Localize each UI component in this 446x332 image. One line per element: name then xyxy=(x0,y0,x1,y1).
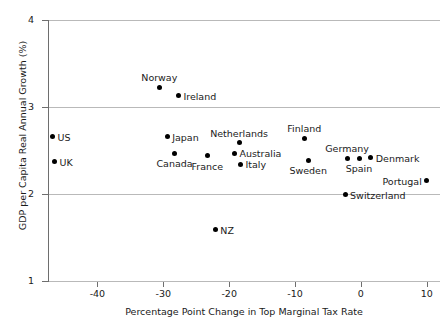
data-point-label: US xyxy=(58,132,71,142)
gridline-y-1 xyxy=(48,281,440,282)
gridline-y-4 xyxy=(48,20,440,21)
data-point-marker xyxy=(368,155,373,160)
gridline-y-3 xyxy=(48,107,440,108)
data-point-label: Switzerland xyxy=(350,190,405,200)
data-point-label: Japan xyxy=(172,132,199,142)
data-point-marker xyxy=(213,227,218,232)
data-point-label: Sweden xyxy=(289,166,327,176)
data-point-label: France xyxy=(192,162,224,172)
data-point-marker xyxy=(165,134,170,139)
x-tick-label--30: -30 xyxy=(143,289,183,299)
data-point-marker xyxy=(302,136,307,141)
data-point-label: Finland xyxy=(287,124,321,134)
x-tick--40 xyxy=(97,282,98,287)
data-point-label: Netherlands xyxy=(210,129,268,139)
data-point-marker xyxy=(345,156,350,161)
y-tick-1 xyxy=(42,281,49,282)
data-point-label: Norway xyxy=(141,73,177,83)
y-axis-title: GDP per Capita Real Annual Growth (%) xyxy=(17,16,28,256)
x-tick--20 xyxy=(229,282,230,287)
scatter-chart: USUKNorwayIrelandJapanCanadaFranceNZNeth… xyxy=(0,0,446,332)
x-tick-0 xyxy=(361,282,362,287)
data-point-label: Germany xyxy=(325,144,369,154)
x-tick-label--40: -40 xyxy=(77,289,117,299)
x-tick-label--10: -10 xyxy=(275,289,315,299)
data-point-label: Ireland xyxy=(183,91,216,101)
x-tick-label--20: -20 xyxy=(209,289,249,299)
data-point-marker xyxy=(238,162,243,167)
x-tick--30 xyxy=(163,282,164,287)
data-point-marker xyxy=(176,93,181,98)
data-point-label-text: Portugal xyxy=(382,176,421,186)
data-point-label: Italy xyxy=(245,160,266,170)
data-point-marker xyxy=(52,159,57,164)
data-point-marker xyxy=(232,151,237,156)
data-point-marker xyxy=(205,153,210,158)
data-point-marker xyxy=(172,151,177,156)
data-point-label: Canada xyxy=(156,159,192,169)
data-point-marker xyxy=(50,134,55,139)
x-tick-label-0: 0 xyxy=(341,289,381,299)
data-point-label: Spain xyxy=(346,164,373,174)
data-point-marker xyxy=(357,156,362,161)
y-tick-4 xyxy=(42,20,49,21)
data-point-marker xyxy=(343,192,348,197)
data-point-marker xyxy=(157,85,162,90)
x-tick--10 xyxy=(295,282,296,287)
data-point-label: Australia xyxy=(239,149,281,159)
x-axis-title: Percentage Point Change in Top Marginal … xyxy=(48,306,440,317)
data-point-marker xyxy=(237,140,242,145)
data-point-label: Denmark xyxy=(376,153,420,163)
x-tick-label-10: 10 xyxy=(407,289,446,299)
y-tick-3 xyxy=(42,107,49,108)
data-point-label: NZ xyxy=(220,225,234,235)
x-tick-10 xyxy=(427,282,428,287)
y-tick-label-1: 1 xyxy=(12,276,34,286)
y-tick-2 xyxy=(42,194,49,195)
plot-area: USUKNorwayIrelandJapanCanadaFranceNZNeth… xyxy=(48,20,440,281)
data-point-marker xyxy=(424,178,429,183)
data-point-marker xyxy=(306,158,311,163)
data-point-label: UK xyxy=(60,157,73,167)
